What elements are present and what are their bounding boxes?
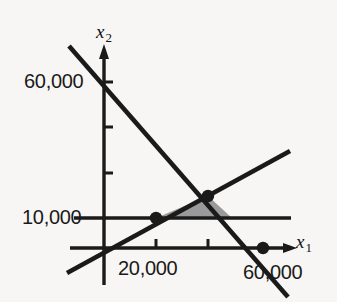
y-axis-tick-label-10000: 10,000 xyxy=(22,207,81,227)
vertex-point-top xyxy=(202,190,214,202)
x1-axis-label: x1 xyxy=(296,232,311,251)
x1-axis-arrowhead xyxy=(283,243,297,253)
figure-canvas: 60,000 10,000 20,000 60,000 x1 x2 xyxy=(0,0,337,302)
x-axis-tick-label-60000: 60,000 xyxy=(243,262,302,282)
x-axis-tick-label-20000: 20,000 xyxy=(118,258,177,278)
x2-axis-label: x2 xyxy=(96,22,111,41)
x1-axis-label-base: x xyxy=(296,231,304,252)
vertex-point-x-axis xyxy=(257,242,269,254)
x1-axis-label-subscript: 1 xyxy=(305,240,312,255)
x2-axis-arrowhead xyxy=(99,44,109,59)
y-axis-tick-label-60000: 60,000 xyxy=(24,71,83,91)
vertex-point-left xyxy=(150,212,162,224)
x2-axis-label-subscript: 2 xyxy=(105,30,112,45)
feasible-region-shading xyxy=(156,196,232,218)
x2-axis-label-base: x xyxy=(96,21,104,42)
